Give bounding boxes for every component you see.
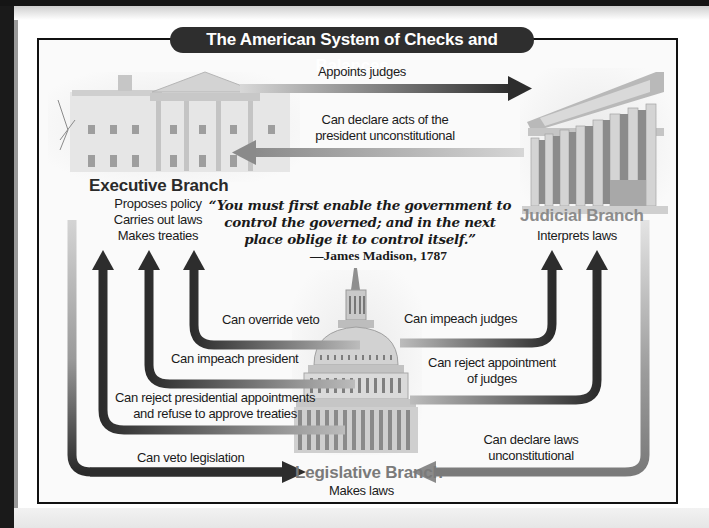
judicial-branch-title: Judicial Branch xyxy=(520,206,644,226)
executive-branch-duties: Proposes policy Carries out laws Makes t… xyxy=(98,196,218,244)
judicial-branch-duties: Interprets laws xyxy=(537,228,617,244)
duty-item: Makes treaties xyxy=(98,228,218,244)
duty-item: Interprets laws xyxy=(537,228,617,244)
supreme-court-illustration xyxy=(520,68,670,218)
label-line: unconstitutional xyxy=(476,448,586,464)
label-impeach-president: Can impeach president xyxy=(171,351,298,367)
label-impeach-judges: Can impeach judges xyxy=(404,311,517,327)
label-veto-legislation: Can veto legislation xyxy=(137,450,244,466)
label-line: of judges xyxy=(422,371,562,387)
label-appoints-judges: Appoints judges xyxy=(318,64,406,80)
label-declare-laws-unconstitutional: Can declare laws unconstitutional xyxy=(476,432,586,464)
legislative-branch-title: Legislative Branch xyxy=(295,463,443,483)
madison-quote: “You must first enable the government to… xyxy=(205,197,515,248)
label-line: Can declare acts of the xyxy=(300,112,470,128)
label-line: and refuse to approve treaties xyxy=(115,406,315,422)
label-line: Can declare laws xyxy=(476,432,586,448)
label-line: Can reject appointment xyxy=(422,355,562,371)
duty-item: Carries out laws xyxy=(98,212,218,228)
diagram-title: The American System of Checks and Balanc… xyxy=(170,27,534,53)
label-reject-presidential-appointments: Can reject presidential appointments and… xyxy=(115,390,315,422)
label-reject-appointment-of-judges: Can reject appointment of judges xyxy=(422,355,562,387)
duty-item: Makes laws xyxy=(329,483,394,499)
label-override-veto: Can override veto xyxy=(222,312,320,328)
quote-attribution: —James Madison, 1787 xyxy=(310,248,447,264)
label-line: Can reject presidential appointments xyxy=(115,390,315,406)
label-declare-acts-unconstitutional: Can declare acts of the president uncons… xyxy=(300,112,470,144)
executive-branch-title: Executive Branch xyxy=(89,176,228,196)
label-line: president unconstitutional xyxy=(300,128,470,144)
legislative-branch-duties: Makes laws xyxy=(329,483,394,499)
duty-item: Proposes policy xyxy=(98,196,218,212)
